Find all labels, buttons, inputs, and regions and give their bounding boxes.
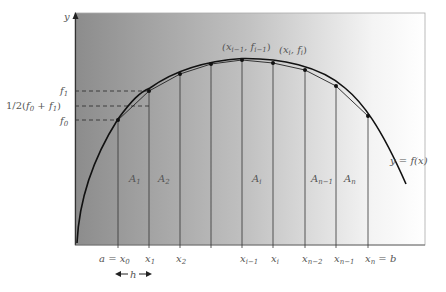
label-f0: f0 [59, 115, 69, 128]
arrow-left-icon [115, 271, 121, 277]
label-x1: x1 [145, 253, 155, 266]
label-f1: f1 [59, 85, 68, 98]
label-x-i: xi [271, 253, 279, 266]
label-step-h: h [130, 269, 136, 280]
y-axis-label: y [63, 11, 70, 22]
label-x2: x2 [176, 253, 187, 266]
step-h-arrow: h [115, 269, 152, 280]
trapezoidal-rule-diagram: y f1 1/2(f0 + f1) [0, 0, 446, 292]
arrow-right-icon [146, 271, 152, 277]
label-x-i-1: xi−1 [240, 253, 258, 266]
label-half-sum: 1/2(f0 + f1) [6, 100, 61, 113]
label-curve: y = f(x) [389, 155, 428, 166]
label-x-n-1: xn−1 [334, 253, 354, 266]
label-x-n-2: xn−2 [302, 253, 323, 266]
label-x0: a = x0 [99, 253, 130, 266]
label-x-n: xn = b [365, 253, 396, 266]
